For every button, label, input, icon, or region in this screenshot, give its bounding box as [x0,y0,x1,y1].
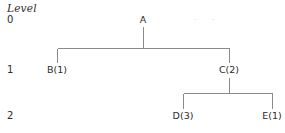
tree-node-d: D(3) [173,110,194,121]
tree-diagram: Level 0 1 2 A · · B(1) C(2) D(3) E(1) [0,0,285,133]
ellipsis-icon: · · [194,14,221,25]
edge-a-to-children [58,27,230,63]
tree-node-c: C(2) [219,64,239,75]
edge-c-to-children [184,78,273,109]
tree-node-a: A [140,14,147,25]
tree-node-b: B(1) [47,64,67,75]
tree-node-e: E(1) [262,110,281,121]
